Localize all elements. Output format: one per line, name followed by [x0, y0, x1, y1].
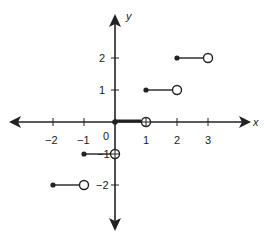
x-tick-label: −1	[77, 134, 90, 146]
x-axis-label: x	[252, 116, 259, 128]
closed-point-icon	[174, 55, 179, 60]
open-point-icon	[173, 86, 182, 95]
closed-point-icon	[81, 151, 86, 156]
y-tick-label: 1	[99, 84, 105, 96]
closed-point-icon	[112, 119, 118, 125]
open-point-icon	[204, 54, 213, 63]
x-tick-label: 1	[143, 134, 149, 146]
x-tick-label: 2	[174, 134, 180, 146]
closed-point-icon	[143, 87, 148, 92]
origin-label: 0	[103, 130, 109, 142]
y-axis-label: y	[125, 10, 133, 22]
open-point-icon	[80, 181, 89, 190]
x-tick-label: 3	[205, 134, 211, 146]
closed-point-icon	[50, 182, 55, 187]
y-tick-label: −2	[96, 179, 109, 191]
step-function-graph: y x 0 −2 −1 1 2 3 2 1 −1 −2	[0, 0, 264, 237]
x-tick-label: −2	[45, 134, 58, 146]
y-tick-label: 2	[99, 52, 105, 64]
